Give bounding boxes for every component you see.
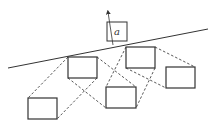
diagram-canvas: a	[0, 0, 218, 129]
dashed-link	[68, 78, 106, 108]
box-a-label: a	[114, 26, 120, 37]
box-a	[68, 57, 97, 78]
dashed-link	[155, 47, 195, 67]
diagram-svg: a	[0, 0, 218, 129]
dashed-link	[106, 47, 126, 87]
arrow-icon	[108, 12, 113, 45]
box-b	[28, 98, 57, 119]
dashed-link	[57, 78, 97, 119]
box-d	[106, 87, 136, 108]
dashed-link	[126, 68, 166, 88]
boxes-group	[28, 47, 195, 119]
box-c	[126, 47, 155, 68]
incline-line	[8, 29, 208, 68]
box-e	[166, 67, 195, 88]
